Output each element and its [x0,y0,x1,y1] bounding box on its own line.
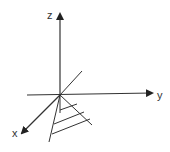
y-label: y [157,89,163,101]
hatch-line [54,112,84,124]
x-label: x [12,127,18,139]
hatch-line [52,119,90,134]
y-axis [27,93,152,95]
region-edge-left [49,95,60,142]
diagonal-line [60,71,82,95]
x-axis [22,95,60,133]
axes-svg: z y x [0,0,170,152]
axes-diagram: z y x [0,0,170,152]
z-label: z [47,9,53,21]
